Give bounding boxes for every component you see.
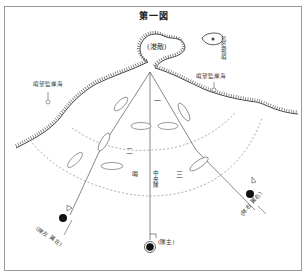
sector-label-center-top: 一 [154, 98, 161, 105]
sector-label-right: 三 [176, 172, 183, 179]
coast-station-left-label: 哨望監岸海 [33, 82, 63, 88]
sector-label-center-lower: 中央隊 [152, 170, 158, 188]
island-label: 島監視哨 [220, 36, 226, 60]
coastline-left [15, 60, 148, 148]
coast-station-right-marker [212, 82, 216, 92]
unit-label-center: (隊主) [158, 240, 174, 246]
sector-label-center-mid: 哨 [132, 171, 138, 177]
coastline-right [155, 66, 298, 114]
dashed-arc-inner [72, 112, 236, 150]
harbor-label: (港敵) [147, 44, 166, 51]
unit-marker-left [59, 205, 72, 222]
coast-station-left-marker [46, 92, 50, 104]
patrol-ovals [65, 95, 210, 173]
coast-station-right-label: 哨望監岸海 [196, 74, 226, 80]
dashed-arc-outer [30, 118, 262, 196]
sector-label-left: 二 [126, 148, 133, 155]
